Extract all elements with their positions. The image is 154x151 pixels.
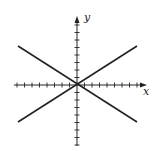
axes <box>14 16 147 146</box>
y-axis-label: y <box>83 11 91 24</box>
x-axis-label: x <box>143 85 150 98</box>
y-axis-arrow-icon <box>75 16 80 23</box>
coordinate-diagram: y x <box>0 0 154 151</box>
